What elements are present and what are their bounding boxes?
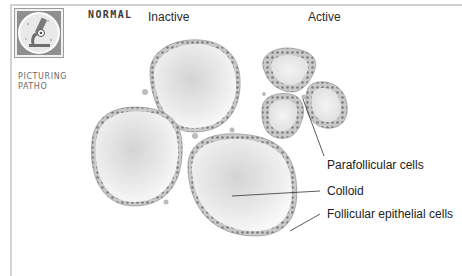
thyroid-follicles-diagram <box>0 0 462 276</box>
callout-parafollicular-cells: Parafollicular cells <box>327 158 424 172</box>
leader-line-follicular <box>290 214 320 231</box>
follicle-active-top <box>263 48 316 92</box>
follicle-active-right <box>306 82 348 129</box>
active-follicles <box>262 48 347 138</box>
follicle-active-left <box>262 94 304 139</box>
parafollicular-cell <box>302 95 307 100</box>
callout-follicular-epithelial-cells: Follicular epithelial cells <box>327 207 453 221</box>
follicle-inactive-left <box>91 107 182 206</box>
callout-colloid: Colloid <box>327 184 364 198</box>
follicle-inactive-bottom <box>188 134 297 236</box>
